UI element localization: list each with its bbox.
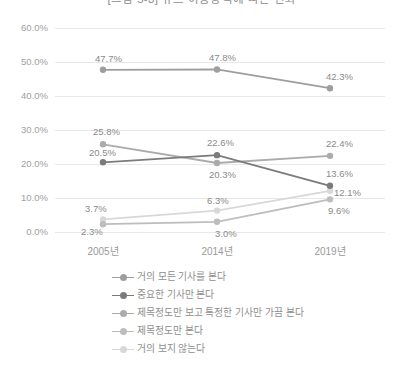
data-point [327,153,333,159]
line-chart: [그림 5-3] 뉴스 이용방식에 따른 변화 47.7%47.8%42.3%2… [0,0,404,374]
y-axis-tick-label: 60.0% [0,23,48,33]
plot-area: 47.7%47.8%42.3%20.5%22.6%13.6%25.8%20.3%… [55,28,385,232]
chart-legend: 거의 모든 기사를 본다중요한 기사만 본다제목정도만 보고 특정한 기사만 가… [112,268,404,358]
x-axis-tick-label: 2005년 [63,246,143,258]
legend-dot [120,328,127,335]
data-point-label: 20.3% [209,169,236,180]
legend-marker-icon [112,272,134,282]
data-point [100,159,106,165]
data-point-label: 6.3% [207,195,229,206]
legend-item[interactable]: 중요한 기사만 본다 [112,286,404,304]
data-point [214,152,220,158]
data-point [327,196,333,202]
data-point [327,85,333,91]
data-point [327,183,333,189]
data-point-label: 3.0% [215,228,237,239]
data-point-label: 20.5% [89,147,116,158]
chart-title: [그림 5-3] 뉴스 이용방식에 따른 변화 [0,0,404,6]
legend-dot [120,274,127,281]
data-point-label: 47.7% [95,53,122,64]
y-axis-tick-label: 50.0% [0,57,48,67]
y-axis-tick-label: 20.0% [0,159,48,169]
data-point-label: 12.1% [334,187,361,198]
legend-dot [120,310,127,317]
legend-marker-icon [112,290,134,300]
y-axis-tick-label: 40.0% [0,91,48,101]
legend-item[interactable]: 거의 모든 기사를 본다 [112,268,404,286]
data-point-label: 22.4% [326,138,353,149]
data-point-label: 42.3% [326,71,353,82]
data-point-label: 9.6% [328,205,350,216]
data-point [214,207,220,213]
data-point-label: 47.8% [209,52,236,63]
legend-item-label: 제목정도만 본다 [137,325,203,337]
legend-marker-icon [112,308,134,318]
legend-item[interactable]: 제목정도만 보고 특정한 기사만 가끔 본다 [112,304,404,322]
y-axis-tick-label: 10.0% [0,193,48,203]
legend-item-label: 거의 보지 않는다 [137,343,205,355]
legend-item-label: 중요한 기사만 본다 [137,289,214,301]
legend-item[interactable]: 거의 보지 않는다 [112,340,404,358]
legend-marker-icon [112,344,134,354]
data-point [100,67,106,73]
legend-item[interactable]: 제목정도만 본다 [112,322,404,340]
x-axis-tick-label: 2014년 [177,246,257,258]
legend-dot [120,292,127,299]
data-point-label: 25.8% [93,126,120,137]
data-point-label: 22.6% [207,137,234,148]
data-point [214,160,220,166]
data-point [214,66,220,72]
legend-marker-icon [112,326,134,336]
y-axis-tick-label: 0.0% [0,227,48,237]
legend-item-label: 제목정도만 보고 특정한 기사만 가끔 본다 [137,307,304,319]
data-point-label: 2.3% [81,226,103,237]
y-axis-tick-label: 30.0% [0,125,48,135]
data-point [214,219,220,225]
legend-item-label: 거의 모든 기사를 본다 [137,271,226,283]
x-axis-tick-label: 2019년 [290,246,370,258]
data-point-label: 3.7% [85,203,107,214]
data-point-label: 13.6% [326,168,353,179]
legend-dot [120,346,127,353]
